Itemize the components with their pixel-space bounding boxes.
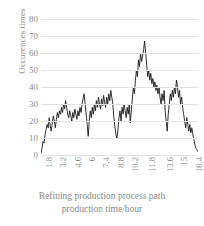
x-tick-label-7.4: 7.4 [101, 157, 111, 168]
x-axis-title-line2: production time/hour [8, 203, 196, 216]
plot-area [41, 19, 198, 155]
x-tick-label-8.8: 8.8 [116, 157, 126, 168]
x-tick-label-11.8: 11.8 [147, 157, 157, 172]
x-tick-label-1.8: 1.8 [44, 157, 54, 168]
x-tick-label-4.6: 4.6 [73, 157, 83, 168]
y-tick-label-10: 10 [22, 134, 38, 142]
x-tick-label-16.4: 16.4 [194, 157, 204, 172]
x-tick-label-10.2: 10.2 [130, 157, 140, 172]
x-tick-label-3.2: 3.2 [58, 157, 68, 168]
series-polyline [41, 41, 198, 153]
y-tick-label-50: 50 [22, 66, 38, 74]
gridline-y-0 [41, 155, 198, 156]
y-tick-label-70: 70 [22, 32, 38, 40]
y-tick-label-60: 60 [22, 49, 38, 57]
gridline-y-70 [41, 36, 198, 37]
x-axis-tick-labels: 1.83.24.667.48.810.211.813.61516.4 [41, 157, 198, 191]
y-tick-label-80: 80 [22, 15, 38, 23]
gridline-y-10 [41, 138, 198, 139]
gridline-y-20 [41, 121, 198, 122]
y-tick-label-30: 30 [22, 100, 38, 108]
gridline-y-50 [41, 70, 198, 71]
gridline-y-60 [41, 53, 198, 54]
y-tick-label-0: 0 [22, 151, 38, 159]
x-tick-label-13.6: 13.6 [165, 157, 175, 172]
gridline-y-40 [41, 87, 198, 88]
y-tick-label-20: 20 [22, 117, 38, 125]
x-axis-title: Refining production process path product… [8, 190, 196, 216]
chart-container: Occurences times 80706050403020100 1.83.… [0, 0, 204, 226]
gridline-y-30 [41, 104, 198, 105]
x-axis-title-line1: Refining production process path [8, 190, 196, 203]
x-tick-label-15: 15 [179, 157, 189, 166]
x-tick-label-6: 6 [87, 157, 97, 161]
y-tick-label-40: 40 [22, 83, 38, 91]
gridline-y-80 [41, 19, 198, 20]
